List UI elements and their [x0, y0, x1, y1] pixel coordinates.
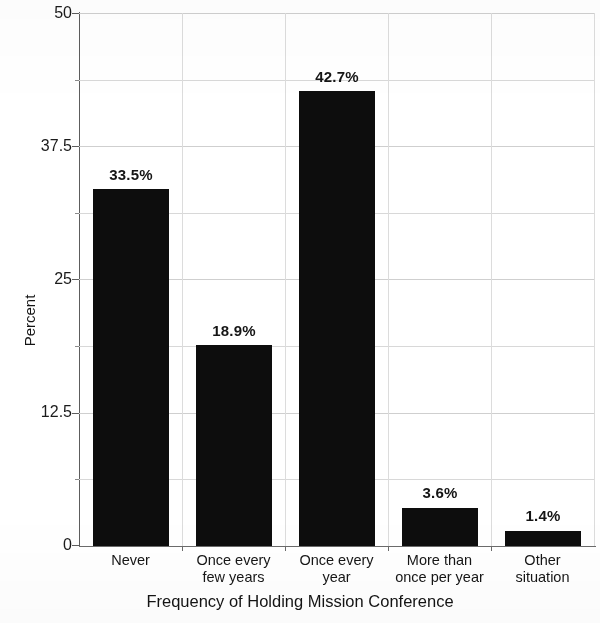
x-axis-line — [79, 546, 596, 547]
bar-other-situation[interactable] — [505, 531, 581, 546]
y-tick-0 — [72, 545, 79, 546]
x-category-label-once-every-year: Once every year — [285, 552, 388, 586]
gridline-v-4 — [491, 13, 492, 546]
bar-once-every-year[interactable] — [299, 91, 375, 546]
gridline-v-3 — [388, 13, 389, 546]
x-category-label-never: Never — [79, 552, 182, 569]
x-category-label-more-than-once-per-year-line-1: More than — [388, 552, 491, 569]
x-axis-title: Frequency of Holding Mission Conference — [0, 592, 600, 611]
x-category-label-once-every-year-line-2: year — [285, 569, 388, 586]
y-tick-label-0: 0 — [63, 536, 72, 554]
y-tick-label-37-5: 37.5 — [41, 137, 72, 155]
y-tick-6-25 — [75, 479, 79, 480]
bar-once-every-few-years[interactable] — [196, 345, 272, 546]
y-tick-label-50: 50 — [54, 4, 72, 22]
y-tick-label-25: 25 — [54, 270, 72, 288]
data-label-other-situation: 1.4% — [495, 507, 591, 524]
x-tick-3 — [388, 546, 389, 551]
data-label-more-than-once-per-year: 3.6% — [392, 484, 488, 501]
x-category-label-once-every-year-line-1: Once every — [285, 552, 388, 569]
x-category-label-never-line-1: Never — [79, 552, 182, 569]
data-label-once-every-few-years: 18.9% — [186, 322, 282, 339]
y-tick-25 — [72, 279, 79, 280]
x-tick-4 — [491, 546, 492, 551]
x-category-label-more-than-once-per-year: More than once per year — [388, 552, 491, 586]
x-category-label-more-than-once-per-year-line-2: once per year — [388, 569, 491, 586]
x-category-label-other-situation-line-2: situation — [491, 569, 594, 586]
y-tick-50 — [72, 13, 79, 14]
data-label-never: 33.5% — [83, 166, 179, 183]
gridline-v-5 — [594, 13, 595, 546]
bar-chart: 50 37.5 25 12.5 0 Percent — [0, 0, 600, 623]
y-tick-37-5 — [72, 146, 79, 147]
x-category-label-once-every-few-years: Once every few years — [182, 552, 285, 586]
x-tick-2 — [285, 546, 286, 551]
y-tick-18-75 — [75, 346, 79, 347]
x-category-label-once-every-few-years-line-1: Once every — [182, 552, 285, 569]
x-tick-1 — [182, 546, 183, 551]
data-label-once-every-year: 42.7% — [289, 68, 385, 85]
gridline-h-50 — [79, 13, 595, 14]
y-tick-43-75 — [75, 80, 79, 81]
y-tick-label-12-5: 12.5 — [41, 403, 72, 421]
gridline-v-2 — [285, 13, 286, 546]
y-tick-12-5 — [72, 413, 79, 414]
plot-area: 33.5% 18.9% 42.7% 3.6% 1.4% — [79, 13, 595, 546]
gridline-v-1 — [182, 13, 183, 546]
x-category-label-once-every-few-years-line-2: few years — [182, 569, 285, 586]
y-axis-title: Percent — [21, 286, 38, 356]
x-category-label-other-situation-line-1: Other — [491, 552, 594, 569]
bar-more-than-once-per-year[interactable] — [402, 508, 478, 546]
bar-never[interactable] — [93, 189, 169, 546]
x-category-label-other-situation: Other situation — [491, 552, 594, 586]
y-tick-31-25 — [75, 213, 79, 214]
